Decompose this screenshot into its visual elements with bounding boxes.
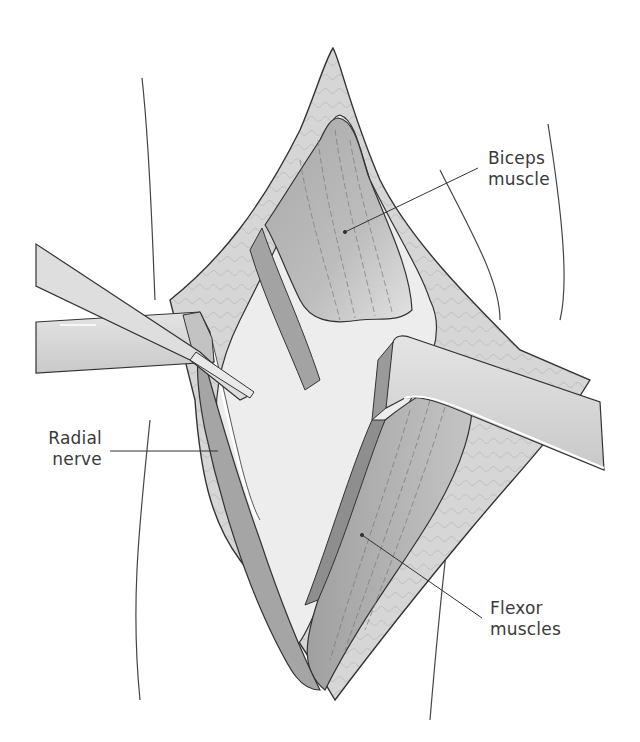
radial-nerve-label: Radial nerve: [48, 428, 102, 470]
flexor-muscles-label: Flexor muscles: [490, 598, 561, 640]
flexor-label-line1: Flexor: [490, 598, 561, 619]
biceps-label-line2: muscle: [488, 169, 550, 190]
radial-label-line1: Radial: [48, 428, 102, 449]
radial-label-line2: nerve: [48, 449, 102, 470]
biceps-label-line1: Biceps: [488, 148, 550, 169]
flexor-label-line2: muscles: [490, 619, 561, 640]
biceps-muscle-label: Biceps muscle: [488, 148, 550, 190]
